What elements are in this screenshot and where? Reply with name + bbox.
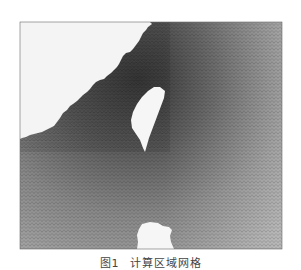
figure-number: 图1 [100,257,120,270]
figure-caption-text: 计算区域网格 [130,257,202,270]
figure-caption: 图1计算区域网格 [0,257,301,270]
mesh-plot [0,0,301,252]
mesh-domain [20,22,282,249]
